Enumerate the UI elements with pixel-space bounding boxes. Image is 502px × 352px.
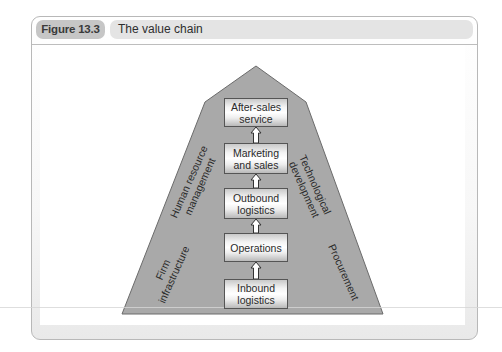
activity-label: logistics bbox=[237, 204, 274, 216]
activity-label: Operations bbox=[230, 242, 281, 254]
activity-label: service bbox=[239, 113, 272, 125]
activity-label: Inbound bbox=[237, 282, 275, 294]
activity-label: logistics bbox=[237, 294, 274, 306]
activity-marketing-and-sales: Marketingand sales bbox=[224, 143, 288, 174]
activity-outbound-logistics: Outboundlogistics bbox=[224, 188, 288, 219]
activity-label: After-sales bbox=[231, 101, 281, 113]
activity-operations: Operations bbox=[224, 233, 288, 262]
activity-inbound-logistics: Inboundlogistics bbox=[224, 279, 288, 309]
activity-after-sales-service: After-salesservice bbox=[224, 98, 288, 127]
activity-label: Outbound bbox=[233, 192, 279, 204]
activity-label: Marketing bbox=[233, 147, 279, 159]
activity-label: and sales bbox=[234, 159, 279, 171]
